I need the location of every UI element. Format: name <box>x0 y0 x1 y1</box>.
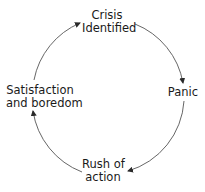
node-satisfaction-and-boredom: Satisfaction and boredom <box>6 84 74 110</box>
node-label-line: Identified <box>82 22 132 35</box>
arrow-crisis-to-panic <box>135 24 183 83</box>
node-label-line: action <box>82 171 124 184</box>
node-rush-of-action: Rush of action <box>82 158 124 184</box>
node-label-line: and boredom <box>6 97 74 110</box>
arrow-satisfaction-to-crisis <box>34 23 80 80</box>
node-label-line: Panic <box>165 86 201 99</box>
node-crisis-identified: Crisis Identified <box>82 9 132 35</box>
node-panic: Panic <box>165 86 201 99</box>
arrow-panic-to-rush <box>128 101 184 171</box>
arrow-rush-to-satisfaction <box>33 111 82 172</box>
